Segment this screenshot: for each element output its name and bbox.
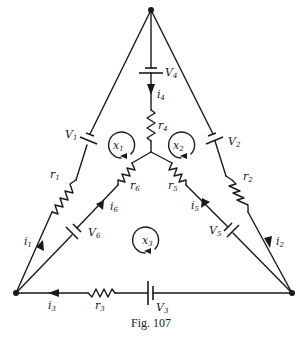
current-arrow-i2 [264, 236, 272, 248]
label-V5: V5 [209, 224, 222, 238]
label-i4: i4 [157, 88, 165, 102]
loop-label-x2: x2 [173, 139, 184, 153]
branch-inner-right [151, 152, 292, 293]
label-V2: V2 [228, 135, 241, 149]
label-i6: i6 [110, 200, 119, 214]
wire [248, 212, 292, 293]
wire [151, 152, 172, 163]
wire [76, 145, 87, 180]
battery-plate-long [80, 137, 97, 144]
label-i1: i1 [24, 235, 32, 249]
label-r5: r5 [168, 179, 178, 193]
wire [16, 212, 52, 293]
current-arrow-i5 [201, 198, 210, 208]
branch-left [16, 10, 151, 293]
wire [215, 141, 226, 176]
current-arrow-i4 [147, 84, 155, 95]
label-r3: r3 [95, 299, 105, 313]
branch-inner-left [16, 152, 151, 293]
label-V1: V1 [65, 128, 77, 142]
label-r1: r1 [50, 168, 60, 182]
resistor-r1 [52, 180, 76, 214]
loop-x2: x2 [169, 132, 195, 159]
current-arrow-i3 [48, 289, 59, 297]
label-r2: r2 [243, 170, 253, 184]
label-V3: V3 [156, 301, 169, 315]
label-i2: i2 [276, 235, 285, 249]
resistor-r4 [147, 110, 155, 141]
resistor-r3 [88, 289, 115, 297]
label-r4: r4 [158, 119, 168, 133]
wire [151, 10, 213, 134]
loop-x1: x1 [109, 132, 135, 159]
label-V4: V4 [165, 66, 177, 80]
circuit-diagram: x1 x2 x3 V4 i4 r4 V1 r1 i1 V2 r2 i2 r6 i… [0, 0, 303, 337]
loop-label-x1: x1 [113, 139, 124, 153]
wire [90, 10, 151, 134]
wire [132, 152, 151, 163]
battery-plate-long [206, 137, 223, 144]
figure-caption: Fig. 107 [131, 316, 171, 330]
battery-plate-long [66, 227, 78, 239]
label-r6: r6 [130, 179, 140, 193]
loop-label-x3: x3 [142, 234, 153, 248]
loop-x3: x3 [133, 227, 159, 254]
branch-bottom [16, 281, 292, 305]
current-arrow-i6 [96, 200, 104, 210]
label-V6: V6 [88, 226, 101, 240]
label-i5: i5 [191, 199, 200, 213]
label-i3: i3 [48, 299, 57, 313]
